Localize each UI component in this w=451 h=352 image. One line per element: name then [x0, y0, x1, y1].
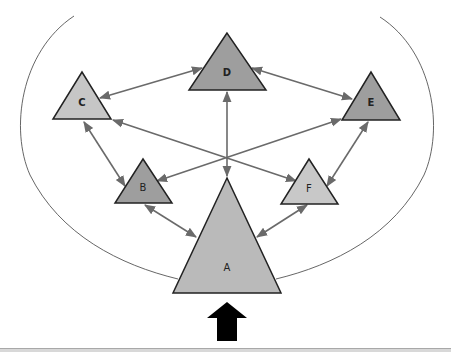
- node-f-label: F: [306, 183, 312, 194]
- edge-b-a: [145, 205, 196, 237]
- node-e-label: E: [368, 97, 375, 108]
- edge-c-d: [100, 68, 202, 98]
- node-d-label: D: [223, 67, 231, 78]
- node-d-triangle: [189, 33, 266, 90]
- node-c-label: C: [78, 97, 85, 108]
- enclosure-right-curve: [276, 17, 434, 279]
- edge-c-b: [84, 122, 125, 186]
- node-c-triangle: [53, 72, 111, 119]
- node-e: [342, 72, 400, 120]
- node-e-triangle: [342, 72, 400, 120]
- node-a-label: A: [224, 262, 231, 273]
- diagram-svg: D C E B F A: [0, 0, 451, 352]
- edge-e-f: [327, 122, 368, 186]
- node-a: [173, 178, 281, 293]
- node-b-label: B: [140, 182, 147, 193]
- footer-divider: [0, 348, 451, 352]
- node-a-triangle: [173, 178, 281, 293]
- edge-d-e: [252, 68, 352, 99]
- node-b-triangle: [115, 159, 172, 203]
- edge-f-a: [257, 205, 307, 237]
- input-arrow-up-icon: [207, 302, 247, 341]
- enclosure-left-curve: [20, 16, 178, 279]
- node-b: [115, 159, 172, 203]
- node-c: [53, 72, 111, 119]
- node-d: [189, 33, 266, 90]
- diagram-canvas: D C E B F A: [0, 0, 451, 352]
